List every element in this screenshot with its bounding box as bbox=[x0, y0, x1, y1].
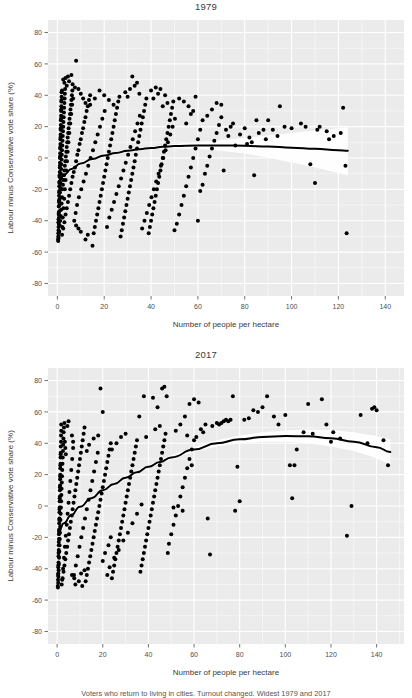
data-point bbox=[57, 568, 61, 572]
y-axis-tick-label: 20 bbox=[34, 471, 42, 478]
data-point bbox=[59, 117, 63, 121]
data-point bbox=[138, 114, 142, 118]
x-axis-tick-label: 120 bbox=[333, 303, 345, 310]
data-point bbox=[61, 120, 65, 124]
data-point bbox=[117, 548, 121, 552]
data-point bbox=[231, 394, 235, 398]
data-point bbox=[144, 539, 148, 543]
data-point bbox=[97, 504, 101, 508]
y-axis-tick-label: -60 bbox=[32, 249, 42, 256]
data-point bbox=[87, 560, 91, 564]
data-point bbox=[56, 573, 60, 577]
chart-panel-1979: 1979 806040200-20-40-60-8002040608010012… bbox=[0, 0, 412, 348]
data-point bbox=[210, 107, 214, 111]
x-axis-tick-label: 40 bbox=[147, 303, 155, 310]
data-point bbox=[65, 145, 69, 149]
data-point bbox=[80, 584, 84, 588]
data-point bbox=[137, 134, 141, 138]
data-point bbox=[184, 184, 188, 188]
data-point bbox=[128, 87, 132, 91]
data-point bbox=[82, 432, 86, 436]
data-point bbox=[187, 402, 191, 406]
data-point bbox=[171, 125, 175, 129]
data-point bbox=[96, 451, 100, 455]
data-point bbox=[242, 418, 246, 422]
data-point bbox=[350, 504, 354, 508]
data-point bbox=[58, 164, 62, 168]
data-point bbox=[100, 187, 104, 191]
x-axis-tick-label: 60 bbox=[194, 303, 202, 310]
data-point bbox=[91, 148, 95, 152]
data-point bbox=[142, 219, 146, 223]
data-point bbox=[98, 386, 102, 390]
x-axis-tick-label: 80 bbox=[236, 651, 244, 658]
data-point bbox=[167, 542, 171, 546]
data-point bbox=[112, 103, 116, 107]
data-point bbox=[78, 142, 82, 146]
data-point bbox=[62, 101, 66, 105]
y-axis-tick-label: 80 bbox=[34, 377, 42, 384]
data-point bbox=[292, 463, 296, 467]
data-point bbox=[130, 172, 134, 176]
data-point bbox=[71, 440, 75, 444]
data-point bbox=[154, 85, 158, 89]
data-point bbox=[224, 128, 228, 132]
y-axis-tick-label: -80 bbox=[32, 628, 42, 635]
chart-title-1979: 1979 bbox=[0, 0, 412, 14]
data-point bbox=[278, 104, 282, 108]
data-point bbox=[94, 523, 98, 527]
data-point bbox=[152, 495, 156, 499]
data-point bbox=[74, 482, 78, 486]
data-point bbox=[66, 539, 70, 543]
data-point bbox=[70, 89, 74, 93]
data-point bbox=[68, 526, 72, 530]
data-point bbox=[63, 440, 67, 444]
y-axis-title: Labour minus Conservative vote share (%) bbox=[6, 430, 15, 582]
data-point bbox=[130, 74, 134, 78]
data-point bbox=[63, 164, 67, 168]
data-point bbox=[119, 176, 123, 180]
data-point bbox=[264, 137, 268, 141]
data-point bbox=[189, 112, 193, 116]
data-point bbox=[83, 568, 87, 572]
data-point bbox=[196, 137, 200, 141]
data-point bbox=[106, 454, 110, 458]
y-axis-tick-label: -40 bbox=[32, 565, 42, 572]
data-point bbox=[58, 485, 62, 489]
data-point bbox=[99, 194, 103, 198]
data-point bbox=[127, 482, 131, 486]
data-point bbox=[64, 212, 68, 216]
chart-title-2017: 2017 bbox=[0, 348, 412, 362]
data-point bbox=[58, 496, 62, 500]
data-point bbox=[169, 112, 173, 116]
data-point bbox=[76, 554, 80, 558]
data-point bbox=[59, 107, 63, 111]
data-point bbox=[64, 551, 68, 555]
data-point bbox=[65, 159, 69, 163]
data-point bbox=[96, 510, 100, 514]
data-point bbox=[69, 468, 73, 472]
data-point bbox=[135, 512, 139, 516]
data-point bbox=[254, 118, 258, 122]
data-point bbox=[73, 488, 77, 492]
data-point bbox=[165, 394, 169, 398]
data-point bbox=[157, 172, 161, 176]
data-point bbox=[329, 440, 333, 444]
data-point bbox=[194, 435, 198, 439]
data-point bbox=[187, 175, 191, 179]
data-point bbox=[81, 438, 85, 442]
data-point bbox=[238, 499, 242, 503]
data-point bbox=[201, 118, 205, 122]
data-point bbox=[62, 111, 66, 115]
data-point bbox=[339, 131, 343, 135]
y-axis-tick-label: 60 bbox=[34, 409, 42, 416]
data-point bbox=[133, 129, 137, 133]
data-point bbox=[175, 222, 179, 226]
data-point bbox=[252, 173, 256, 177]
data-point bbox=[174, 429, 178, 433]
data-point bbox=[94, 460, 98, 464]
data-point bbox=[87, 98, 91, 102]
data-point bbox=[201, 183, 205, 187]
data-point bbox=[327, 137, 331, 141]
data-point bbox=[272, 415, 276, 419]
